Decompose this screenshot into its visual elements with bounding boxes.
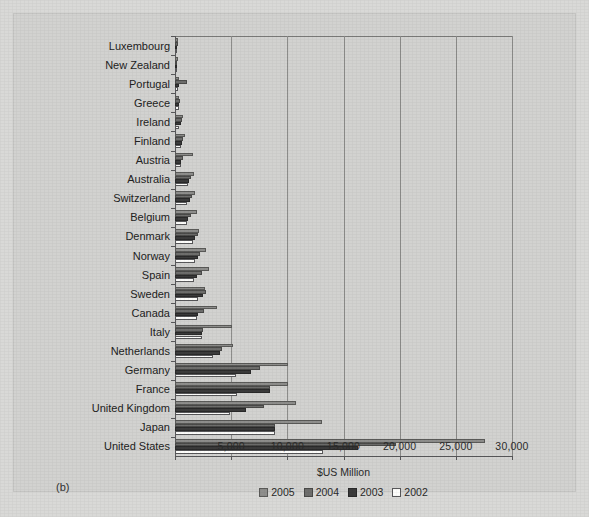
bar-group-row: Portugal bbox=[175, 74, 512, 93]
y-tick bbox=[171, 151, 175, 152]
legend-label: 2004 bbox=[316, 486, 339, 498]
category-label: United Kingdom bbox=[92, 402, 170, 414]
category-label: New Zealand bbox=[105, 59, 170, 71]
y-tick bbox=[171, 322, 175, 323]
bar-group-row: Italy bbox=[175, 322, 512, 341]
category-label: Netherlands bbox=[111, 345, 170, 357]
category-label: Norway bbox=[133, 250, 170, 262]
category-label: Sweden bbox=[130, 288, 170, 300]
bar-2002 bbox=[175, 412, 230, 416]
category-label: Belgium bbox=[130, 211, 170, 223]
bar-2002 bbox=[175, 355, 213, 359]
bar-group-row: Switzerland bbox=[175, 189, 512, 208]
bar-group-row: Spain bbox=[175, 265, 512, 284]
category-label: Greece bbox=[134, 97, 170, 109]
bar-2002 bbox=[175, 278, 194, 282]
x-tick-label: 20,000 bbox=[383, 440, 416, 452]
y-tick bbox=[171, 74, 175, 75]
category-label: Finland bbox=[134, 135, 170, 147]
bar-group-row: United Kingdom bbox=[175, 399, 512, 418]
category-label: Ireland bbox=[136, 116, 170, 128]
bar-2002 bbox=[175, 202, 187, 206]
bar-2002 bbox=[175, 316, 197, 320]
category-label: Canada bbox=[131, 307, 170, 319]
bar-group-row: Canada bbox=[175, 303, 512, 322]
bar-2002 bbox=[175, 297, 198, 301]
x-axis-title: $US Million bbox=[175, 466, 512, 478]
gridline bbox=[512, 36, 513, 456]
legend-swatch-icon bbox=[304, 488, 313, 497]
legend-item-2002[interactable]: 2002 bbox=[392, 486, 427, 498]
category-label: Spain bbox=[142, 269, 170, 281]
legend-item-2004[interactable]: 2004 bbox=[304, 486, 339, 498]
y-tick bbox=[171, 399, 175, 400]
bar-group-row: Belgium bbox=[175, 208, 512, 227]
y-tick bbox=[171, 131, 175, 132]
bar-2002 bbox=[175, 374, 236, 378]
figure-container: LuxembourgNew ZealandPortugalGreeceIrela… bbox=[0, 0, 589, 517]
bar-group-row: Australia bbox=[175, 170, 512, 189]
y-tick bbox=[171, 284, 175, 285]
bar-group-row: Luxembourg bbox=[175, 36, 512, 55]
plot-area: LuxembourgNew ZealandPortugalGreeceIrela… bbox=[175, 36, 512, 456]
y-tick bbox=[171, 361, 175, 362]
x-tick-label: 5,000 bbox=[218, 440, 245, 452]
y-tick bbox=[171, 437, 175, 438]
bar-2002 bbox=[175, 164, 181, 168]
category-label: Austria bbox=[136, 154, 170, 166]
bar-2002 bbox=[175, 221, 187, 225]
y-tick bbox=[171, 55, 175, 56]
legend-label: 2003 bbox=[360, 486, 383, 498]
y-tick bbox=[171, 380, 175, 381]
bar-group-row: New Zealand bbox=[175, 55, 512, 74]
x-tick bbox=[400, 456, 401, 460]
bar-2002 bbox=[175, 145, 181, 149]
legend-item-2003[interactable]: 2003 bbox=[348, 486, 383, 498]
y-tick bbox=[171, 341, 175, 342]
bar-group-row: Norway bbox=[175, 246, 512, 265]
bar-2002 bbox=[175, 49, 177, 53]
category-label: Japan bbox=[140, 421, 170, 433]
category-label: Switzerland bbox=[113, 192, 170, 204]
x-tick-label: 30,000 bbox=[495, 440, 528, 452]
bar-2002 bbox=[175, 106, 179, 110]
bar-2002 bbox=[175, 240, 193, 244]
bar-2002 bbox=[175, 393, 237, 397]
legend-item-2005[interactable]: 2005 bbox=[259, 486, 294, 498]
category-label: Germany bbox=[125, 364, 170, 376]
legend-swatch-icon bbox=[259, 488, 268, 497]
y-tick bbox=[171, 189, 175, 190]
bar-group-row: Japan bbox=[175, 418, 512, 437]
legend-swatch-icon bbox=[348, 488, 357, 497]
x-tick-label: 15,000 bbox=[327, 440, 360, 452]
x-tick bbox=[287, 456, 288, 460]
bar-2002 bbox=[175, 87, 178, 91]
y-tick bbox=[171, 246, 175, 247]
y-tick bbox=[171, 208, 175, 209]
category-label: United States bbox=[104, 440, 170, 452]
x-tick bbox=[456, 456, 457, 460]
chart-panel: LuxembourgNew ZealandPortugalGreeceIrela… bbox=[13, 13, 576, 492]
bar-2002 bbox=[175, 336, 202, 340]
bar-group-row: Austria bbox=[175, 151, 512, 170]
x-tick bbox=[344, 456, 345, 460]
x-tick bbox=[231, 456, 232, 460]
y-tick bbox=[171, 93, 175, 94]
category-label: France bbox=[136, 383, 170, 395]
bar-group-row: Sweden bbox=[175, 284, 512, 303]
bar-group-row: Ireland bbox=[175, 112, 512, 131]
legend-swatch-icon bbox=[392, 488, 401, 497]
bar-2002 bbox=[175, 431, 275, 435]
y-tick bbox=[171, 36, 175, 37]
legend-label: 2005 bbox=[271, 486, 294, 498]
y-tick bbox=[171, 227, 175, 228]
bar-2002 bbox=[175, 183, 188, 187]
bar-group-row: Netherlands bbox=[175, 341, 512, 360]
x-tick-label: 25,000 bbox=[439, 440, 472, 452]
y-tick bbox=[171, 418, 175, 419]
x-tick bbox=[175, 456, 176, 460]
bar-2002 bbox=[175, 259, 195, 263]
bar-group-row: Germany bbox=[175, 361, 512, 380]
category-label: Portugal bbox=[129, 78, 170, 90]
bar-2002 bbox=[175, 68, 177, 72]
